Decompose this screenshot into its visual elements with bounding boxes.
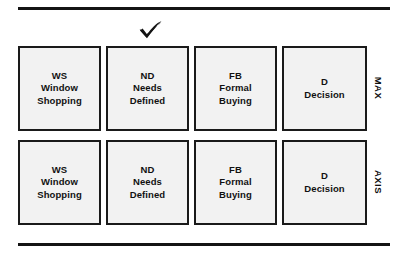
stage-name-line1: Window	[37, 176, 82, 189]
diagram-canvas: WS Window Shopping ND Needs Defined FB F…	[0, 0, 406, 253]
stage-cell-d-row0[interactable]: D Decision	[282, 46, 367, 131]
stage-name-line1: Formal	[219, 176, 252, 189]
stage-abbr: FB	[219, 70, 252, 83]
stage-cell-text: WS Window Shopping	[37, 164, 82, 202]
stage-name-line1: Decision	[304, 183, 344, 196]
axis-label-max: MAX	[366, 46, 384, 131]
stage-abbr: D	[304, 170, 344, 183]
stage-cell-ws-row0[interactable]: WS Window Shopping	[18, 46, 101, 131]
stage-name-line1: Needs	[130, 176, 166, 189]
stage-cell-text: D Decision	[304, 76, 344, 101]
stage-cell-fb-row0[interactable]: FB Formal Buying	[194, 46, 277, 131]
stage-abbr: WS	[37, 70, 82, 83]
stage-name-line1: Needs	[130, 82, 166, 95]
stage-name-line1: Decision	[304, 89, 344, 102]
stage-abbr: WS	[37, 164, 82, 177]
stage-cell-text: D Decision	[304, 170, 344, 195]
stage-name-line2: Buying	[219, 95, 252, 108]
stage-row-axis: WS Window Shopping ND Needs Defined FB F…	[0, 140, 406, 225]
stage-name-line2: Shopping	[37, 189, 82, 202]
stage-cell-nd-row0[interactable]: ND Needs Defined	[106, 46, 189, 131]
stage-abbr: FB	[219, 164, 252, 177]
stage-cell-text: WS Window Shopping	[37, 70, 82, 108]
stage-cell-text: FB Formal Buying	[219, 164, 252, 202]
stage-cell-text: ND Needs Defined	[130, 164, 166, 202]
stage-abbr: ND	[130, 164, 166, 177]
stage-abbr: ND	[130, 70, 166, 83]
stage-cell-text: FB Formal Buying	[219, 70, 252, 108]
stage-grid: WS Window Shopping ND Needs Defined FB F…	[0, 0, 406, 253]
stage-cell-nd-row1[interactable]: ND Needs Defined	[106, 140, 189, 225]
stage-name-line2: Shopping	[37, 95, 82, 108]
stage-cell-ws-row1[interactable]: WS Window Shopping	[18, 140, 101, 225]
stage-cell-fb-row1[interactable]: FB Formal Buying	[194, 140, 277, 225]
stage-name-line1: Window	[37, 82, 82, 95]
stage-name-line1: Formal	[219, 82, 252, 95]
stage-cell-text: ND Needs Defined	[130, 70, 166, 108]
stage-cell-d-row1[interactable]: D Decision	[282, 140, 367, 225]
stage-name-line2: Buying	[219, 189, 252, 202]
stage-name-line2: Defined	[130, 95, 166, 108]
stage-abbr: D	[304, 76, 344, 89]
axis-label-axis: AXIS	[366, 140, 384, 225]
stage-row-max: WS Window Shopping ND Needs Defined FB F…	[0, 46, 406, 131]
stage-name-line2: Defined	[130, 189, 166, 202]
bottom-divider-rule	[18, 243, 390, 246]
